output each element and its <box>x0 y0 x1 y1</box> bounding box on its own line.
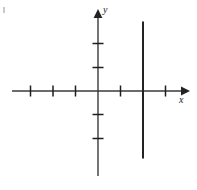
coordinate-plane-figure: y x <box>0 0 197 190</box>
y-axis-group <box>94 9 103 176</box>
x-axis-group <box>12 87 190 96</box>
coordinate-plane-svg: y x <box>0 0 197 190</box>
x-axis-label: x <box>178 94 184 105</box>
y-axis-arrow-icon <box>94 9 103 18</box>
scan-artifact <box>3 7 5 13</box>
y-axis-label: y <box>102 4 108 15</box>
